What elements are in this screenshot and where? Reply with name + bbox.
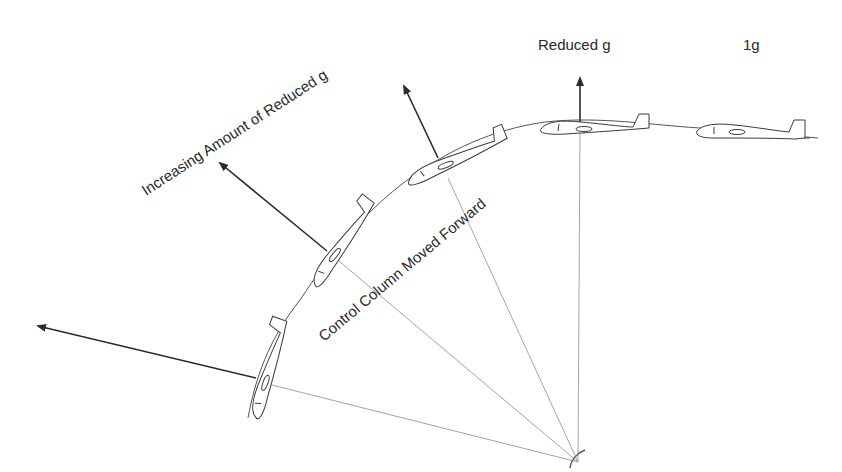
pushover-diagram: Increasing Amount of Reduced g Reduced g… [0,0,842,472]
force-arrow-2 [220,163,327,251]
glider-1 [238,316,295,420]
glider-2 [300,194,381,289]
label-increasing-reduced-g: Increasing Amount of Reduced g [138,66,330,199]
glider-1g [697,120,810,139]
label-reduced-g: Reduced g [538,36,611,53]
glider-3 [401,124,511,187]
glider-reduced-g [540,114,649,134]
label-1g: 1g [743,36,760,53]
force-arrow-3 [404,86,438,158]
pivot-arc [570,450,585,468]
force-arrow-1 [38,326,256,378]
radius-line-4 [578,132,580,462]
flight-path [248,120,818,418]
label-control-column: Control Column Moved Forward [315,195,489,345]
